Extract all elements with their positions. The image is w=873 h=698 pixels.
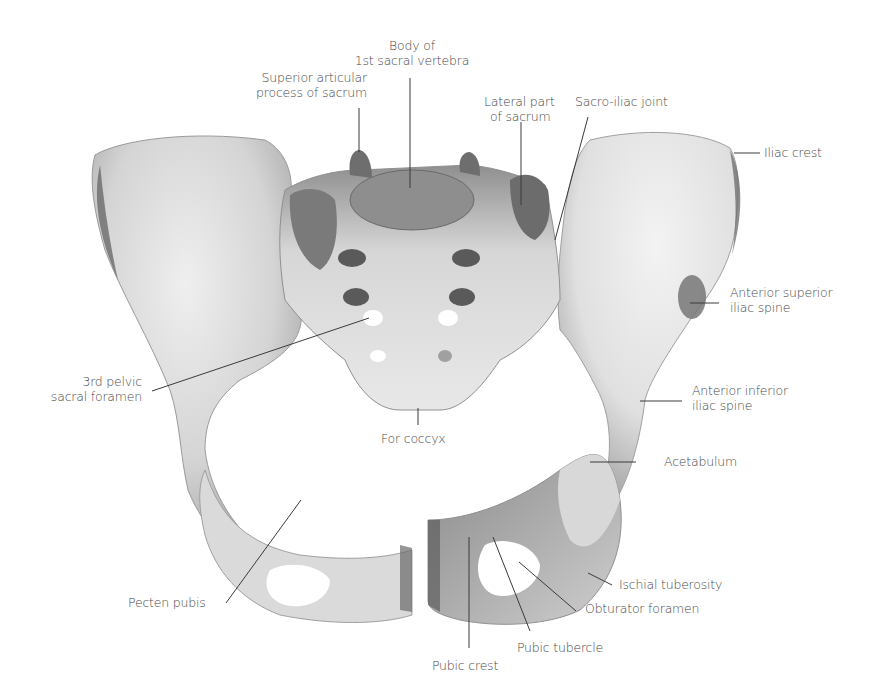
pelvis-figure: Body of 1st sacral vertebra Superior art… (0, 0, 873, 698)
label-sacro-iliac-joint: Sacro-iliac joint (575, 94, 668, 109)
label-obturator-foramen: Obturator foramen (585, 601, 699, 616)
label-anterior-superior-iliac-spine: Anterior superior iliac spine (730, 285, 833, 315)
pelvis-illustration (0, 0, 873, 698)
label-superior-articular-process: Superior articular process of sacrum (222, 70, 367, 100)
label-for-coccyx: For coccyx (381, 431, 446, 446)
s1-body (350, 170, 474, 230)
label-ischial-tuberosity: Ischial tuberosity (619, 577, 722, 592)
label-pecten-pubis: Pecten pubis (128, 595, 206, 610)
label-lateral-part-of-sacrum: Lateral part of sacrum (484, 94, 555, 124)
left-ilium (92, 136, 301, 560)
label-pubic-crest: Pubic crest (432, 658, 498, 673)
label-iliac-crest: Iliac crest (764, 145, 822, 160)
label-body-of-1st-sacral-vertebra: Body of 1st sacral vertebra (352, 38, 472, 68)
label-pubic-tubercle: Pubic tubercle (517, 640, 603, 655)
label-acetabulum: Acetabulum (664, 454, 737, 469)
label-anterior-inferior-iliac-spine: Anterior inferior iliac spine (692, 383, 788, 413)
label-3rd-pelvic-sacral-foramen: 3rd pelvic sacral foramen (20, 374, 142, 404)
